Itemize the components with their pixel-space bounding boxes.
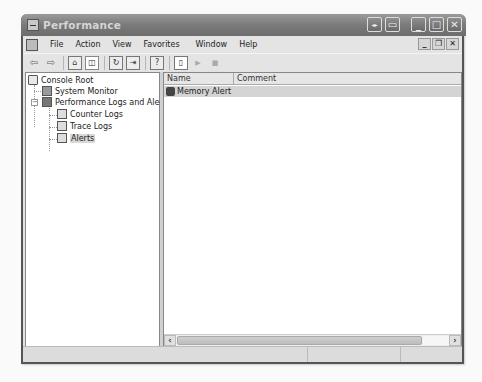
tree-connector	[49, 139, 57, 140]
start-button[interactable]: ▶	[191, 56, 205, 70]
tree-node-label: Trace Logs	[70, 122, 112, 131]
up-one-level-button[interactable]: ⌂	[68, 56, 82, 70]
title-bar[interactable]: Performance ◂▸ ▭ _ □ ✕	[21, 14, 466, 36]
performance-window: Performance ◂▸ ▭ _ □ ✕ File Action View …	[21, 14, 464, 364]
toolbar-separator	[104, 56, 105, 70]
info-button[interactable]: ◂▸	[367, 17, 382, 32]
menu-action[interactable]: Action	[69, 40, 106, 49]
list-header: Name Comment	[164, 73, 461, 85]
toolbar-separator	[145, 56, 146, 70]
menu-favorites[interactable]: Favorites	[137, 40, 185, 49]
refresh-button[interactable]: ↻	[109, 56, 123, 70]
tree-connector	[34, 91, 41, 92]
horizontal-scrollbar[interactable]: ‹ ›	[164, 334, 461, 346]
back-button[interactable]: ⇦	[27, 56, 41, 70]
tree-node-label: Console Root	[41, 76, 93, 85]
tree-connector	[49, 127, 57, 128]
tree-node-trace-logs[interactable]: Trace Logs	[57, 120, 112, 132]
tree-node-label: Counter Logs	[70, 110, 123, 119]
tree-connector	[49, 105, 50, 151]
list-row-memory-alert[interactable]: Memory Alert	[164, 86, 461, 97]
log-icon	[57, 109, 67, 119]
status-segment	[308, 347, 401, 362]
scroll-thumb[interactable]	[177, 336, 422, 345]
maximize-button[interactable]: □	[429, 17, 444, 32]
menu-window[interactable]: Window	[190, 40, 234, 49]
mdi-buttons: _ ❐ ✕	[418, 38, 459, 50]
menu-view[interactable]: View	[106, 40, 137, 49]
close-button[interactable]: ✕	[447, 17, 462, 32]
scroll-track[interactable]	[423, 336, 449, 345]
folder-icon	[28, 75, 38, 85]
status-segment	[23, 347, 308, 362]
tree-node-performance-logs-and-alerts[interactable]: Performance Logs and Alerts	[42, 96, 170, 108]
alert-item-icon	[166, 87, 175, 96]
menu-help[interactable]: Help	[233, 40, 263, 49]
status-segment	[401, 347, 462, 362]
status-bar	[23, 346, 462, 362]
perf-logs-icon	[42, 97, 52, 107]
show-hide-tree-button[interactable]: ◫	[85, 56, 99, 70]
alert-name: Memory Alert	[177, 87, 231, 96]
toolbar: ⇦ ⇨ ⌂ ◫ ↻ ⇥ ? ▯ ▶ ■	[23, 53, 462, 71]
monitor-icon	[42, 86, 52, 96]
mdi-restore-button[interactable]: ❐	[432, 38, 445, 50]
tree-node-label: System Monitor	[55, 87, 118, 96]
tree-node-label: Alerts	[70, 134, 95, 143]
mdi-minimize-button[interactable]: _	[418, 38, 431, 50]
window-button[interactable]: ▭	[385, 17, 400, 32]
log-icon	[57, 121, 67, 131]
stop-button[interactable]: ■	[208, 56, 222, 70]
scroll-left-button[interactable]: ‹	[164, 335, 176, 346]
title-buttons: ◂▸ ▭ _ □ ✕	[367, 17, 462, 32]
performance-app-icon	[27, 19, 39, 31]
alert-icon	[57, 133, 67, 143]
details-pane: Name Comment Memory Alert ‹ ›	[163, 72, 462, 347]
new-alert-button[interactable]: ▯	[174, 56, 188, 70]
tree-node-alerts[interactable]: Alerts	[57, 132, 95, 144]
window-title: Performance	[43, 19, 121, 31]
scroll-right-button[interactable]: ›	[449, 335, 461, 346]
toolbar-separator	[169, 56, 170, 70]
column-header-comment[interactable]: Comment	[234, 73, 461, 85]
console-tree-pane: Console Root System Monitor − Performanc…	[25, 72, 160, 347]
mmc-system-menu-icon[interactable]	[26, 39, 38, 51]
collapse-toggle[interactable]: −	[31, 99, 38, 106]
menu-file[interactable]: File	[44, 40, 69, 49]
export-list-button[interactable]: ⇥	[126, 56, 140, 70]
tree-node-counter-logs[interactable]: Counter Logs	[57, 108, 123, 120]
column-header-name[interactable]: Name	[164, 73, 234, 85]
tree-connector	[49, 115, 57, 116]
toolbar-separator	[63, 56, 64, 70]
forward-button[interactable]: ⇨	[44, 56, 58, 70]
tree-node-label: Performance Logs and Alerts	[55, 98, 170, 107]
help-button[interactable]: ?	[150, 56, 164, 70]
menu-bar: File Action View Favorites Window Help _…	[23, 36, 462, 53]
mdi-close-button[interactable]: ✕	[446, 38, 459, 50]
minimize-button[interactable]: _	[411, 17, 426, 32]
